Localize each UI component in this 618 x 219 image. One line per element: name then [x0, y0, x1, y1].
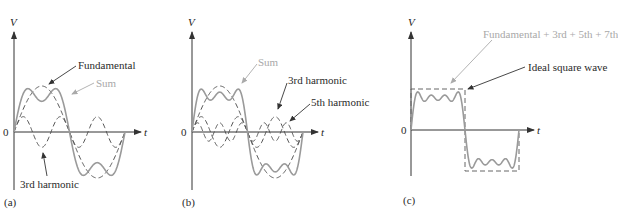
panel-label: (c): [403, 194, 416, 207]
y-axis-label: V: [188, 16, 196, 28]
panel-label: (a): [4, 196, 17, 209]
sum-label: Sum: [258, 56, 279, 68]
square-wave-label: Ideal square wave: [528, 61, 608, 73]
fourier-square-wave-figure: V t 0 Fundamental Sum 3rd harmonic (a) V…: [0, 0, 618, 219]
y-axis-label: V: [10, 16, 18, 28]
x-axis-label: t: [321, 126, 325, 138]
x-axis-label: t: [144, 126, 148, 138]
x-axis-label: t: [537, 124, 541, 136]
third-harmonic-label: 3rd harmonic: [20, 178, 79, 190]
sum-label: Fundamental + 3rd + 5th + 7th: [483, 28, 618, 40]
panel-c: V t 0 Fundamental + 3rd + 5th + 7th Idea…: [401, 16, 618, 207]
fifth-harmonic-label: 5th harmonic: [311, 96, 369, 108]
fifth-harmonic-arrow: [290, 104, 310, 121]
sum-arrow: [451, 40, 492, 83]
third-harmonic-label: 3rd harmonic: [288, 74, 347, 86]
square-wave-arrow: [468, 67, 525, 89]
sum-arrow: [72, 83, 94, 94]
third-harmonic-arrow: [43, 153, 47, 176]
sum-label: Sum: [96, 77, 117, 89]
sum-arrow: [242, 64, 257, 83]
origin-label: 0: [401, 124, 407, 136]
origin-label: 0: [3, 126, 9, 138]
panel-label: (b): [182, 196, 195, 209]
fundamental-label: Fundamental: [78, 59, 135, 71]
panel-b: V t 0 Sum 3rd harmonic 5th harmonic (b): [181, 16, 369, 209]
y-axis-label: V: [408, 16, 416, 28]
third-harmonic-arrow: [278, 83, 287, 109]
panel-a: V t 0 Fundamental Sum 3rd harmonic (a): [3, 16, 148, 209]
fundamental-arrow: [49, 66, 76, 84]
origin-label: 0: [181, 126, 187, 138]
